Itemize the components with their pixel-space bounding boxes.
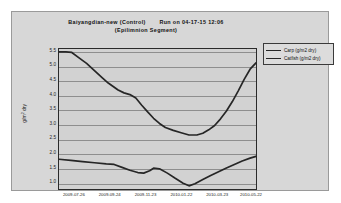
- legend: Carp (g/m2 dry) Catfish (g/m2 dry): [263, 43, 334, 65]
- plot-area: [58, 48, 257, 190]
- y-axis-tick-label: 1.5: [38, 166, 56, 171]
- x-axis-tick-label: 2010-05-22: [229, 192, 273, 197]
- chart-title-row: Baiyangdian-new (Control) Run on 04-17-1…: [26, 18, 266, 26]
- legend-item-carp: Carp (g/m2 dry): [266, 46, 331, 54]
- figure-frame: Baiyangdian-new (Control) Run on 04-17-1…: [11, 11, 329, 191]
- chart-run-label: Run on 04-17-15 12:06: [159, 19, 223, 25]
- y-axis-title-text: g/m: [21, 114, 27, 122]
- legend-line-icon: [266, 58, 281, 59]
- legend-item-catfish: Catfish (g/m2 dry): [266, 54, 331, 62]
- chart-subtitle: (Epilimnion Segment): [26, 26, 266, 34]
- y-axis-tick-label: 4.5: [38, 78, 56, 83]
- chart-title: Baiyangdian-new (Control): [68, 19, 145, 25]
- y-axis-tick-label: 1.0: [38, 180, 56, 185]
- series-line-carp: [59, 52, 256, 135]
- legend-label-catfish: Catfish (g/m2 dry): [284, 56, 321, 61]
- y-axis-tick-labels: 5.55.04.54.03.53.02.52.01.51.0: [38, 48, 56, 190]
- y-axis-tick-label: 3.0: [38, 122, 56, 127]
- y-axis-tick-label: 3.5: [38, 107, 56, 112]
- y-axis-title-exponent: 2: [21, 112, 25, 114]
- legend-label-carp: Carp (g/m2 dry): [284, 48, 316, 53]
- x-axis-tick-labels: 2009-07-262009-09-242009-11-232010-01-22…: [58, 192, 257, 202]
- y-axis-tick-label: 2.5: [38, 136, 56, 141]
- y-axis-tick-label: 2.0: [38, 151, 56, 156]
- chart-screenshot: Baiyangdian-new (Control) Run on 04-17-1…: [0, 0, 341, 203]
- y-axis-title: g/m2 dry: [21, 93, 28, 133]
- y-axis-title-units: dry: [21, 104, 27, 112]
- series-line-catfish: [59, 156, 256, 185]
- legend-line-icon: [266, 50, 281, 51]
- y-axis-tick-label: 5.0: [38, 63, 56, 68]
- y-axis-tick-label: 4.0: [38, 93, 56, 98]
- chart-title-block: Baiyangdian-new (Control) Run on 04-17-1…: [26, 18, 266, 34]
- series-container: [59, 49, 256, 189]
- y-axis-tick-label: 5.5: [38, 49, 56, 54]
